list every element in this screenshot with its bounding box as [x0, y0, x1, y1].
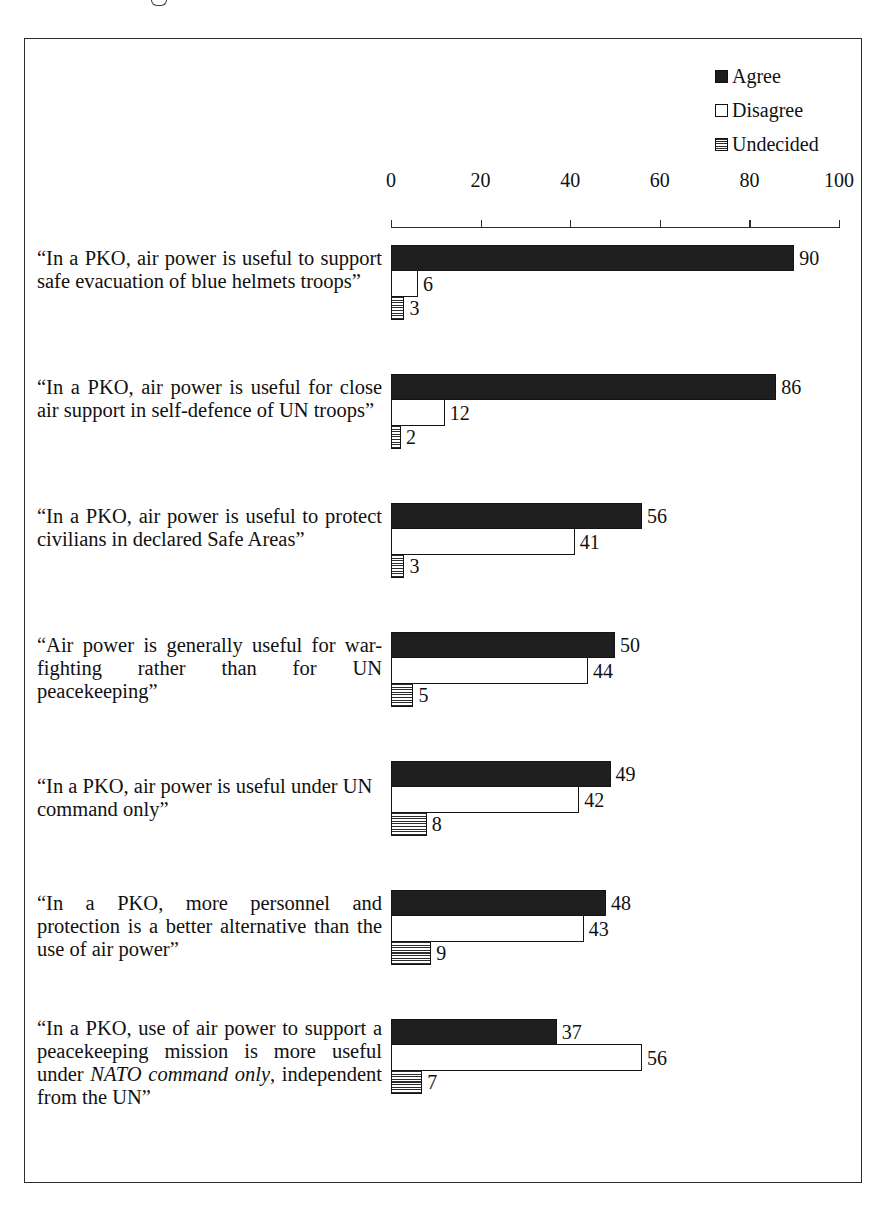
page-fragment-above-figure	[151, 0, 167, 6]
bar-undecided	[391, 1070, 422, 1094]
bar-undecided	[391, 941, 431, 965]
bar-groups: “In a PKO, air power is useful to suppor…	[25, 235, 863, 1138]
bar-value-label: 9	[436, 943, 446, 963]
bar-group-label: “Air power is generally useful for war-f…	[37, 634, 382, 703]
bar-value-label: 3	[409, 298, 419, 318]
bar-undecided	[391, 683, 413, 707]
x-axis-tick-label: 40	[560, 169, 580, 192]
bar-disagree	[391, 786, 579, 813]
bar-disagree	[391, 1044, 642, 1071]
bar-value-label: 86	[781, 377, 801, 397]
empty-white-swatch-icon	[715, 104, 728, 117]
x-axis-tick-label: 0	[386, 169, 396, 192]
bar-group: “In a PKO, use of air power to support a…	[25, 1009, 863, 1138]
bar-value-label: 8	[432, 814, 442, 834]
bar-value-label: 56	[647, 1048, 667, 1068]
x-axis-tick-mark	[749, 220, 750, 228]
bar-group: “In a PKO, air power is useful to suppor…	[25, 235, 863, 364]
bar-agree	[391, 890, 606, 916]
bar-group: “In a PKO, more personnel and protection…	[25, 880, 863, 1009]
bar-value-label: 37	[562, 1022, 582, 1042]
legend-item-agree: Agree	[715, 59, 855, 93]
bar-value-label: 43	[589, 919, 609, 939]
filled-black-swatch-icon	[715, 70, 728, 83]
bar-value-label: 56	[647, 506, 667, 526]
bar-value-label: 12	[450, 403, 470, 423]
bar-agree	[391, 374, 776, 400]
bar-value-label: 44	[593, 661, 613, 681]
bar-agree	[391, 503, 642, 529]
bar-value-label: 3	[409, 556, 419, 576]
bar-group-label: “In a PKO, air power is useful to protec…	[37, 505, 382, 551]
bar-value-label: 7	[427, 1072, 437, 1092]
legend-item-label: Agree	[732, 66, 781, 86]
x-axis-tick-label: 100	[824, 169, 854, 192]
x-axis-tick-mark	[570, 220, 571, 228]
bar-undecided	[391, 425, 401, 449]
legend-item-disagree: Disagree	[715, 93, 855, 127]
x-axis: 020406080100	[25, 169, 863, 239]
legend-item-undecided: Undecided	[715, 127, 855, 161]
x-axis-tick-label: 20	[471, 169, 491, 192]
bar-agree	[391, 245, 794, 271]
bar-agree	[391, 761, 611, 787]
bar-group-label: “In a PKO, air power is useful for close…	[37, 376, 382, 422]
bar-group-label: “In a PKO, air power is useful under UN …	[37, 775, 382, 821]
x-axis-tick-label: 60	[650, 169, 670, 192]
x-axis-tick-label: 80	[739, 169, 759, 192]
bar-value-label: 2	[406, 427, 416, 447]
bar-agree	[391, 1019, 557, 1045]
x-axis-tick-mark	[391, 220, 392, 228]
bar-value-label: 90	[799, 248, 819, 268]
x-axis-tick-mark	[660, 220, 661, 228]
bar-disagree	[391, 528, 575, 555]
legend-item-label: Undecided	[732, 134, 819, 154]
legend-item-label: Disagree	[732, 100, 803, 120]
x-axis-tick-mark	[839, 220, 840, 228]
bar-group: “In a PKO, air power is useful under UN …	[25, 751, 863, 880]
bar-disagree	[391, 915, 584, 942]
bar-value-label: 6	[423, 274, 433, 294]
bar-value-label: 50	[620, 635, 640, 655]
bar-value-label: 41	[580, 532, 600, 552]
bar-group-label: “In a PKO, air power is useful to suppor…	[37, 247, 382, 293]
bar-undecided	[391, 554, 404, 578]
bar-undecided	[391, 812, 427, 836]
bar-agree	[391, 632, 615, 658]
x-axis-line	[391, 227, 839, 228]
x-axis-tick-mark	[481, 220, 482, 228]
bar-group: “In a PKO, air power is useful for close…	[25, 364, 863, 493]
bar-disagree	[391, 657, 588, 684]
bar-disagree	[391, 270, 418, 297]
bar-undecided	[391, 296, 404, 320]
bar-value-label: 5	[418, 685, 428, 705]
bar-group-label: “In a PKO, use of air power to support a…	[37, 1017, 382, 1109]
bar-group-label: “In a PKO, more personnel and protection…	[37, 892, 382, 961]
legend: AgreeDisagreeUndecided	[715, 59, 855, 161]
bar-disagree	[391, 399, 445, 426]
bar-value-label: 48	[611, 893, 631, 913]
figure-frame: AgreeDisagreeUndecided 020406080100 “In …	[24, 38, 862, 1183]
bar-group: “In a PKO, air power is useful to protec…	[25, 493, 863, 622]
bar-value-label: 42	[584, 790, 604, 810]
striped-swatch-icon	[715, 138, 728, 151]
bar-group: “Air power is generally useful for war-f…	[25, 622, 863, 751]
bar-value-label: 49	[616, 764, 636, 784]
